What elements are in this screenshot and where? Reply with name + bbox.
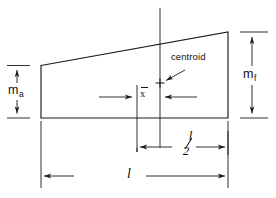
label-m-f-subscript: f	[254, 73, 256, 83]
label-m-a-base: m	[8, 83, 18, 97]
label-m-f-base: m	[243, 67, 253, 81]
trapezoid-shape	[41, 32, 228, 118]
diagram-canvas: ma mf centroid x l 2 l	[0, 0, 276, 198]
label-centroid: centroid	[171, 52, 206, 62]
label-length: l	[127, 166, 131, 182]
figure-svg	[0, 0, 276, 198]
label-m-f: mf	[243, 68, 256, 81]
label-m-a: ma	[8, 84, 23, 97]
extension-lines	[41, 121, 228, 188]
label-x-bar: x	[140, 87, 148, 100]
label-half-length: l 2	[178, 129, 198, 157]
label-x-bar-glyph: x	[140, 89, 148, 100]
label-m-a-subscript: a	[19, 89, 24, 99]
